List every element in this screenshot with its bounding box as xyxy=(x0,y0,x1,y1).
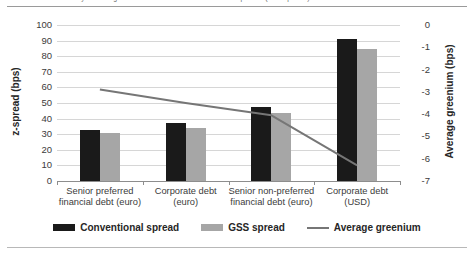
chart-legend: Conventional spreadGSS spreadAverage gre… xyxy=(0,222,474,233)
plot-area xyxy=(57,25,400,181)
left-axis-title: z-spread (bps) xyxy=(10,42,21,162)
x-tick xyxy=(57,181,58,185)
left-y-tick-label: 100 xyxy=(26,20,52,30)
figure-caption-text: Chart 2: Greenium by bond segment — conv… xyxy=(0,0,474,3)
top-divider-rule xyxy=(7,6,467,7)
x-tick xyxy=(229,181,230,185)
legend-item-label: Conventional spread xyxy=(80,222,179,233)
left-y-tick-label: 80 xyxy=(26,51,52,61)
right-y-tick-label: -6 xyxy=(404,154,430,164)
right-y-tick-label: -4 xyxy=(404,109,430,119)
legend-bar-swatch-icon xyxy=(201,224,223,231)
right-y-tick-label: -3 xyxy=(404,87,430,97)
x-tick xyxy=(143,181,144,185)
left-y-tick-label: 20 xyxy=(26,145,52,155)
legend-line-swatch-icon xyxy=(307,227,329,229)
average-greenium-line xyxy=(57,25,400,181)
legend-item[interactable]: Conventional spread xyxy=(53,222,179,233)
x-tick xyxy=(400,181,401,185)
left-y-tick-label: 40 xyxy=(26,114,52,124)
right-y-tick-label: 0 xyxy=(404,20,430,30)
left-y-tick-label: 90 xyxy=(26,36,52,46)
category-label: Senior non-preferred financial debt (eur… xyxy=(229,186,315,208)
legend-item[interactable]: GSS spread xyxy=(201,222,285,233)
right-y-tick-label: -1 xyxy=(404,42,430,52)
right-y-tick-label: -5 xyxy=(404,131,430,141)
left-y-tick-label: 60 xyxy=(26,82,52,92)
left-y-tick-label: 0 xyxy=(26,176,52,186)
category-label: Senior preferred financial debt (euro) xyxy=(57,186,143,208)
legend-bar-swatch-icon xyxy=(53,224,75,231)
legend-item-label: Average greenium xyxy=(334,222,421,233)
chart-figure: Chart 2: Greenium by bond segment — conv… xyxy=(0,0,474,256)
figure-caption-clipped: Chart 2: Greenium by bond segment — conv… xyxy=(0,0,474,3)
legend-item-label: GSS spread xyxy=(228,222,285,233)
left-y-tick-label: 10 xyxy=(26,160,52,170)
right-y-tick-label: -2 xyxy=(404,65,430,75)
x-tick xyxy=(314,181,315,185)
bottom-divider-rule xyxy=(7,247,467,248)
left-y-tick-label: 50 xyxy=(26,98,52,108)
right-axis-title: Average greenium (bps) xyxy=(444,42,455,162)
legend-item[interactable]: Average greenium xyxy=(307,222,421,233)
category-label: Corporate debt (USD) xyxy=(314,186,400,208)
category-label: Corporate debt (euro) xyxy=(143,186,229,208)
left-y-tick-label: 70 xyxy=(26,67,52,77)
greenium-line-path xyxy=(100,90,357,166)
right-y-tick-label: -7 xyxy=(404,176,430,186)
left-y-tick-label: 30 xyxy=(26,129,52,139)
